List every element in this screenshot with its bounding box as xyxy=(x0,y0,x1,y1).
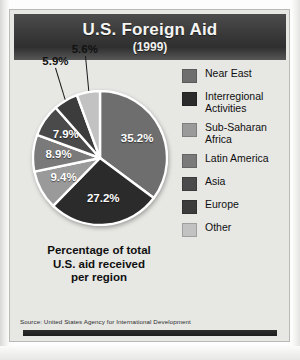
source-note: Source: United States Agency for Interna… xyxy=(20,318,191,325)
legend-label: Other xyxy=(205,222,231,234)
legend-label-line-0: Interregional xyxy=(205,91,263,103)
infographic-page: U.S. Foreign Aid (1999) 35.2%27.2%9.4%8.… xyxy=(0,0,300,360)
caption-line-2: per region xyxy=(20,271,178,285)
slice-value-label: 8.9% xyxy=(42,148,76,160)
legend-swatch-icon xyxy=(182,123,197,137)
legend-label-line-0: Europe xyxy=(205,199,239,211)
page-title: U.S. Foreign Aid xyxy=(83,21,218,39)
legend-item: InterregionalActivities xyxy=(182,91,286,114)
legend-item: Europe xyxy=(182,199,286,214)
paper-edge-right xyxy=(292,0,300,360)
legend-label-line-0: Latin America xyxy=(205,153,269,165)
legend-item: Sub-SaharanAfrica xyxy=(182,122,286,145)
chart-body: 35.2%27.2%9.4%8.9%7.9%5.9%5.6% Percentag… xyxy=(14,62,286,320)
label-leader-line xyxy=(85,56,89,91)
caption-line-1: U.S. aid received xyxy=(20,258,178,272)
legend-item: Other xyxy=(182,222,286,237)
paper-edge-bottom xyxy=(0,346,300,360)
legend-label: Latin America xyxy=(205,153,269,165)
legend-swatch-icon xyxy=(182,92,197,106)
legend-label-line-1: Africa xyxy=(205,134,267,146)
legend-label-line-0: Near East xyxy=(205,68,252,80)
slice-value-label: 7.9% xyxy=(49,128,83,140)
paper-edge-left xyxy=(0,0,9,360)
title-bar: U.S. Foreign Aid (1999) xyxy=(14,14,286,60)
legend-label-line-0: Asia xyxy=(205,176,225,188)
slice-value-label-outside: 5.6% xyxy=(67,43,103,55)
slice-value-label-outside: 5.9% xyxy=(37,55,73,67)
legend-label: Sub-SaharanAfrica xyxy=(205,122,267,145)
legend-label: Asia xyxy=(205,176,225,188)
legend-swatch-icon xyxy=(182,154,197,168)
legend-swatch-icon xyxy=(182,200,197,214)
legend-swatch-icon xyxy=(182,69,197,83)
slice-value-label: 27.2% xyxy=(86,192,120,204)
legend-label: Europe xyxy=(205,199,239,211)
slice-value-label: 35.2% xyxy=(120,132,154,144)
legend-label-line-0: Other xyxy=(205,222,231,234)
chart-panel: U.S. Foreign Aid (1999) 35.2%27.2%9.4%8.… xyxy=(9,9,290,342)
legend-item: Asia xyxy=(182,176,286,191)
legend-swatch-icon xyxy=(182,177,197,191)
legend-label-line-1: Activities xyxy=(205,103,263,115)
legend-label-line-0: Sub-Saharan xyxy=(205,122,267,134)
footer-bar xyxy=(23,330,277,336)
pie-chart: 35.2%27.2%9.4%8.9%7.9%5.9%5.6% xyxy=(18,84,178,234)
legend-swatch-icon xyxy=(182,223,197,237)
legend-label: Near East xyxy=(205,68,252,80)
legend-item: Near East xyxy=(182,68,286,83)
legend-item: Latin America xyxy=(182,153,286,168)
caption-line-0: Percentage of total xyxy=(20,244,178,258)
slice-value-label: 9.4% xyxy=(47,171,81,183)
page-subtitle: (1999) xyxy=(133,40,168,54)
chart-caption: Percentage of totalU.S. aid receivedper … xyxy=(20,244,178,285)
legend-label: InterregionalActivities xyxy=(205,91,263,114)
chart-legend: Near EastInterregionalActivitiesSub-Saha… xyxy=(182,68,286,245)
